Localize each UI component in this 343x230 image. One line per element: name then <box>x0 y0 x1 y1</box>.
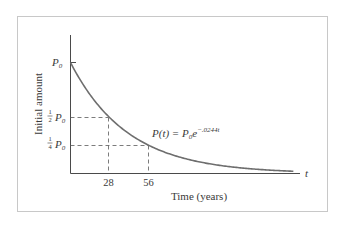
svg-text:2: 2 <box>48 116 51 123</box>
x-tick-56: 56 <box>143 177 154 188</box>
x-axis-title: Time (years) <box>171 190 227 203</box>
svg-text:4: 4 <box>48 143 52 150</box>
decay-curve <box>71 63 294 172</box>
reference-lines <box>71 118 149 174</box>
y-axis-title: Initial amount <box>32 73 44 135</box>
y-label-quarter: 1 4 P0 <box>48 135 66 152</box>
svg-text:1: 1 <box>48 135 51 142</box>
x-axis-symbol: t <box>305 167 309 179</box>
formula-label: P(t) = P0e−.0244t <box>151 126 221 141</box>
svg-text:P0: P0 <box>54 138 66 152</box>
svg-text:1: 1 <box>48 108 51 115</box>
y-label-p0: P0 <box>51 56 63 70</box>
decay-chart: P0 1 2 P0 1 4 P0 Initial amount 28 56 t … <box>0 0 343 230</box>
y-label-half: 1 2 P0 <box>48 108 66 125</box>
x-tick-28: 28 <box>103 177 114 188</box>
svg-text:P0: P0 <box>54 111 66 125</box>
